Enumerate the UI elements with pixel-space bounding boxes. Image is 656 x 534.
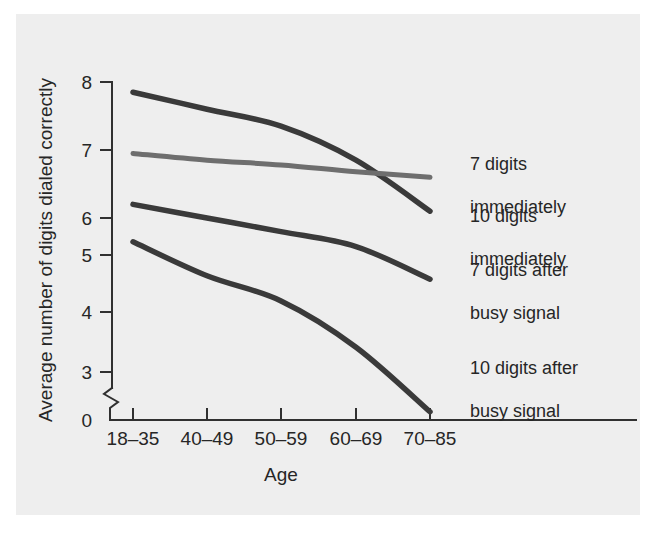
x-tick-label-2: 50–59 [255,428,308,449]
legend-label-line1: 10 digits [470,206,566,228]
y-tick-label-4: 4 [81,302,92,323]
y-tick-label-3: 3 [81,362,92,383]
legend-label-line1: 7 digits after [470,260,568,282]
x-tick-label-0: 18–35 [107,428,160,449]
legend-entry-10-digits-after-busy-signal: 10 digits after busy signal [470,336,578,444]
y-tick-label-0: 0 [81,410,92,431]
series-line-2 [133,204,430,279]
series-group [133,92,430,412]
legend-label-line2: busy signal [470,401,578,423]
y-axis-title: Average number of digits dialed correctl… [35,78,56,422]
y-tick-label-8: 8 [81,72,92,93]
figure-container: Average number of digits dialed correctl… [0,0,656,534]
x-tick-label-4: 70–85 [404,428,457,449]
x-axis-title: Age [264,464,298,485]
series-line-0 [133,92,430,211]
x-axis-ticks: 18–35 40–49 50–59 60–69 70–85 [107,408,457,449]
y-tick-label-7: 7 [81,140,92,161]
x-tick-label-3: 60–69 [330,428,383,449]
y-tick-label-6: 6 [81,208,92,229]
legend-entry-7-digits-after-busy-signal: 7 digits after busy signal [470,238,568,346]
legend-label-line2: busy signal [470,303,568,325]
y-tick-label-5: 5 [81,245,92,266]
x-tick-label-1: 40–49 [181,428,234,449]
series-line-1 [133,153,430,177]
y-axis-ticks: 8 7 6 5 4 3 0 [81,72,112,431]
legend-label-line1: 7 digits [470,154,566,176]
legend-label-line1: 10 digits after [470,358,578,380]
series-line-3 [133,242,430,412]
y-axis-break-symbol [104,388,118,420]
